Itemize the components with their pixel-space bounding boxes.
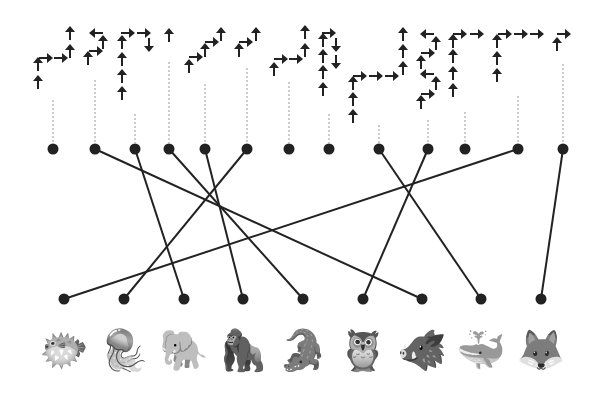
arrow-right-icon bbox=[421, 89, 435, 99]
arrow-up-icon bbox=[83, 51, 93, 65]
top-dot[interactable] bbox=[200, 144, 211, 155]
arrow-right-icon bbox=[514, 29, 528, 39]
whale-icon: 🐳 bbox=[456, 322, 506, 378]
puzzle-canvas: 🐡🪼🐘🦍🐊🦉🐗🐳🦊 bbox=[0, 0, 598, 395]
connection-lines bbox=[64, 149, 563, 299]
arrow-up-icon bbox=[98, 35, 108, 49]
arrow-up-icon bbox=[33, 75, 43, 89]
arrow-up-icon bbox=[117, 86, 127, 100]
bottom-dot[interactable] bbox=[119, 294, 130, 305]
arrow-up-icon bbox=[318, 49, 328, 63]
owl-icon: 🦉 bbox=[338, 322, 388, 378]
arrow-up-icon bbox=[416, 55, 426, 69]
arrow-up-icon bbox=[164, 28, 174, 42]
arrow-up-icon bbox=[200, 43, 210, 57]
bottom-dot[interactable] bbox=[476, 294, 487, 305]
arrow-up-icon bbox=[398, 27, 408, 41]
top-dot[interactable] bbox=[130, 144, 141, 155]
arrow-up-icon bbox=[348, 109, 358, 123]
arrow-up-icon bbox=[348, 76, 358, 90]
top-dot[interactable] bbox=[164, 144, 175, 155]
arrow-down-icon bbox=[144, 38, 154, 52]
arrow-up-icon bbox=[251, 27, 261, 41]
arrow-right-icon bbox=[89, 46, 103, 56]
arrow-paths bbox=[33, 25, 571, 123]
arrow-up-icon bbox=[65, 44, 75, 58]
jellyfish-icon: 🪼 bbox=[99, 322, 149, 378]
top-dot[interactable] bbox=[242, 144, 253, 155]
arrow-up-icon bbox=[216, 27, 226, 41]
bottom-dot[interactable] bbox=[298, 294, 309, 305]
crocodile-icon: 🐊 bbox=[278, 322, 328, 378]
arrow-right-icon bbox=[369, 71, 383, 81]
arrow-up-icon bbox=[117, 69, 127, 83]
connection-line[interactable] bbox=[64, 149, 518, 299]
top-dots bbox=[48, 144, 569, 155]
top-dot[interactable] bbox=[558, 144, 569, 155]
pufferfish-icon: 🐡 bbox=[39, 322, 89, 378]
top-dot[interactable] bbox=[90, 144, 101, 155]
arrow-left-icon bbox=[89, 28, 103, 38]
arrow-left-icon bbox=[420, 29, 434, 39]
arrow-right-icon bbox=[274, 54, 288, 64]
arrow-up-icon bbox=[552, 37, 562, 51]
top-dot[interactable] bbox=[284, 144, 295, 155]
top-dot[interactable] bbox=[423, 144, 434, 155]
top-dot[interactable] bbox=[460, 144, 471, 155]
arrow-up-icon bbox=[398, 44, 408, 58]
arrow-up-icon bbox=[318, 65, 328, 79]
top-dot[interactable] bbox=[374, 144, 385, 155]
arrow-up-icon bbox=[117, 52, 127, 66]
arrow-up-icon bbox=[318, 33, 328, 47]
arrow-left-icon bbox=[420, 69, 434, 79]
boar-icon: 🐗 bbox=[397, 322, 447, 378]
arrow-right-icon bbox=[530, 29, 544, 39]
arrow-up-icon bbox=[117, 35, 127, 49]
arrow-down-icon bbox=[331, 55, 341, 69]
arrow-up-icon bbox=[492, 51, 502, 65]
top-dot[interactable] bbox=[48, 144, 59, 155]
arrow-up-icon bbox=[269, 62, 279, 76]
bottom-dot[interactable] bbox=[59, 294, 70, 305]
arrow-up-icon bbox=[300, 25, 310, 39]
arrow-right-icon bbox=[205, 37, 219, 47]
arrow-up-icon bbox=[448, 83, 458, 97]
arrow-right-icon bbox=[470, 29, 484, 39]
arrow-right-icon bbox=[54, 53, 68, 63]
connection-line[interactable] bbox=[169, 149, 303, 299]
arrow-up-icon bbox=[348, 92, 358, 106]
arrow-up-icon bbox=[398, 61, 408, 75]
connection-line[interactable] bbox=[379, 149, 481, 299]
arrow-right-icon bbox=[498, 29, 512, 39]
arrow-down-icon bbox=[331, 38, 341, 52]
bottom-dot[interactable] bbox=[238, 294, 249, 305]
top-dot[interactable] bbox=[513, 144, 524, 155]
arrow-right-icon bbox=[421, 48, 435, 58]
arrow-up-icon bbox=[318, 82, 328, 96]
bottom-dot[interactable] bbox=[358, 294, 369, 305]
arrow-right-icon bbox=[289, 54, 303, 64]
arrow-up-icon bbox=[448, 66, 458, 80]
arrow-up-icon bbox=[33, 57, 43, 71]
bottom-dots bbox=[59, 294, 547, 305]
top-dot[interactable] bbox=[324, 144, 335, 155]
fox-icon: 🦊 bbox=[516, 322, 566, 378]
dotted-guides bbox=[53, 62, 563, 143]
arrow-up-icon bbox=[431, 36, 441, 50]
arrow-up-icon bbox=[65, 26, 75, 40]
arrow-up-icon bbox=[492, 34, 502, 48]
arrow-up-icon bbox=[431, 76, 441, 90]
arrow-up-icon bbox=[448, 34, 458, 48]
bottom-dot[interactable] bbox=[417, 294, 428, 305]
arrow-up-icon bbox=[234, 43, 244, 57]
arrow-up-icon bbox=[184, 59, 194, 73]
connection-line[interactable] bbox=[541, 149, 563, 299]
arrow-up-icon bbox=[300, 43, 310, 57]
arrow-up-icon bbox=[492, 68, 502, 82]
arrow-up-icon bbox=[448, 49, 458, 63]
bottom-dot[interactable] bbox=[536, 294, 547, 305]
arrow-right-icon bbox=[189, 52, 203, 62]
arrow-up-icon bbox=[416, 95, 426, 109]
arrow-right-icon bbox=[239, 37, 253, 47]
bottom-dot[interactable] bbox=[179, 294, 190, 305]
